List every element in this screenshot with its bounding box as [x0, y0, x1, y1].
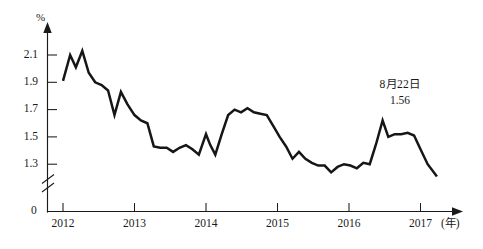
- y-tick-label-1-7: 1.7: [12, 103, 38, 115]
- x-tick-label-2013: 2013: [115, 218, 155, 230]
- x-tick-label-2012: 2012: [43, 218, 83, 230]
- x-axis-arrow-icon: [452, 207, 463, 215]
- x-tick-label-2016: 2016: [329, 218, 369, 230]
- x-axis-caption: (年): [441, 218, 460, 230]
- y-tick-label-1-3: 1.3: [12, 158, 38, 170]
- x-tick-label-2014: 2014: [186, 218, 226, 230]
- y-tick-label-1-5: 1.5: [12, 131, 38, 143]
- y-axis-origin-label: 0: [31, 205, 37, 217]
- y-axis-arrow-icon: [43, 22, 51, 33]
- y-tick-label-1-9: 1.9: [12, 76, 38, 88]
- x-tick-label-2017: 2017: [401, 218, 441, 230]
- line-chart: % 2.1 1.9 1.7 1.5 1.3 0 2012 2013 2014 2…: [0, 0, 483, 249]
- chart-canvas: [0, 0, 483, 249]
- y-tick-label-2-1: 2.1: [12, 49, 38, 61]
- x-tick-label-2015: 2015: [258, 218, 298, 230]
- annotation-value-label: 1.56: [350, 93, 450, 109]
- data-series-line: [63, 51, 437, 177]
- annotation-callout: 8月22日 1.56: [350, 77, 450, 108]
- y-axis-unit-label: %: [36, 12, 45, 23]
- annotation-date-label: 8月22日: [350, 77, 450, 93]
